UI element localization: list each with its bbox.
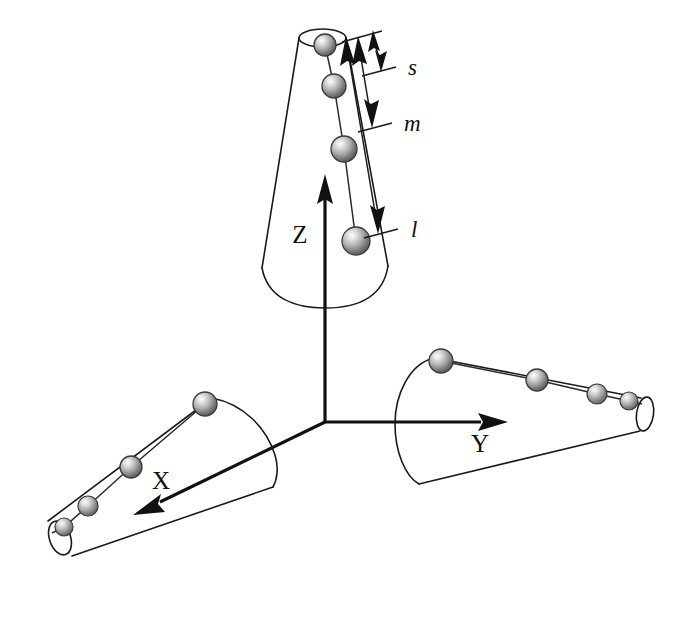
bead-z-2 [322, 74, 346, 98]
axis-label-x: X [152, 467, 170, 494]
measure-m: m [352, 36, 421, 136]
axis-x-shaft [160, 422, 325, 502]
axis-label-z: Z [292, 221, 307, 248]
axis-y-arrowhead [478, 413, 508, 431]
measure-label-m: m [404, 111, 421, 136]
axis-label-y: Y [471, 430, 489, 457]
diagram-canvas: Z X Y l m [0, 0, 686, 617]
measure-l-shaft [348, 52, 376, 218]
measure-s-arrowhead-bottom [375, 50, 387, 72]
cone-y [395, 349, 656, 484]
measure-s-tick [362, 67, 396, 76]
cone-axes-diagram: Z X Y l m [0, 0, 686, 617]
measure-label-l: l [411, 217, 417, 242]
cone-y-lower-edge [419, 431, 640, 484]
bead-y-1 [429, 349, 453, 373]
bead-y-2 [526, 369, 548, 391]
bead-y-4 [620, 392, 638, 410]
measure-m-arrowhead-bottom [364, 99, 379, 128]
bead-z-1 [314, 34, 336, 56]
axis-x-arrowhead [133, 494, 165, 515]
bead-x-2 [120, 456, 142, 478]
bead-x-1 [193, 392, 217, 416]
bead-x-3 [78, 496, 98, 516]
measure-s: s [362, 30, 417, 80]
bead-x-4 [55, 518, 73, 536]
measure-m-arrowhead-top [352, 36, 367, 66]
axis-z: Z [292, 174, 333, 422]
bead-y-3 [587, 384, 607, 404]
bead-z-4 [342, 227, 370, 255]
axis-y: Y [325, 413, 508, 457]
measure-label-s: s [408, 55, 417, 80]
bead-z-3 [331, 136, 357, 162]
